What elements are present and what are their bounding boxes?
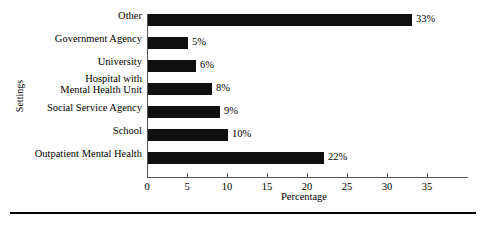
bar-value-label: 10% bbox=[232, 127, 251, 141]
bar-value-label: 9% bbox=[224, 104, 238, 118]
x-axis-tick bbox=[307, 173, 308, 178]
bar bbox=[148, 106, 220, 118]
bar-value-label: 5% bbox=[192, 35, 206, 49]
category-label: University bbox=[24, 56, 142, 67]
bar bbox=[148, 37, 188, 49]
x-axis-tick bbox=[427, 173, 428, 178]
bar bbox=[148, 83, 212, 95]
bar-value-label: 6% bbox=[200, 58, 214, 72]
category-label: Social Service Agency bbox=[24, 102, 142, 113]
x-axis-tick bbox=[147, 173, 148, 178]
x-axis-title: Percentage bbox=[0, 191, 486, 202]
bar-value-label: 22% bbox=[328, 150, 347, 164]
horizontal-bar-chart: Settings Other Government Agency Univers… bbox=[0, 0, 486, 225]
bar-value-label: 33% bbox=[416, 12, 435, 26]
bar bbox=[148, 14, 412, 26]
bar bbox=[148, 152, 324, 164]
x-axis-tick bbox=[227, 173, 228, 178]
bar bbox=[148, 60, 196, 72]
category-label: School bbox=[24, 125, 142, 136]
x-axis-tick bbox=[387, 173, 388, 178]
category-label: Hospital with Mental Health Unit bbox=[24, 73, 142, 95]
plot-area: 33% 5% 6% 8% 9% 10% 22% bbox=[147, 14, 468, 178]
category-label: Outpatient Mental Health bbox=[24, 148, 142, 159]
bar bbox=[148, 129, 228, 141]
bottom-divider-rule bbox=[10, 212, 476, 214]
x-axis-tick bbox=[267, 173, 268, 178]
x-axis-tick bbox=[347, 173, 348, 178]
x-axis-tick bbox=[187, 173, 188, 178]
bar-value-label: 8% bbox=[216, 81, 230, 95]
category-label: Other bbox=[24, 10, 142, 21]
category-axis-labels: Other Government Agency University Hospi… bbox=[24, 8, 142, 180]
category-label: Government Agency bbox=[24, 33, 142, 44]
